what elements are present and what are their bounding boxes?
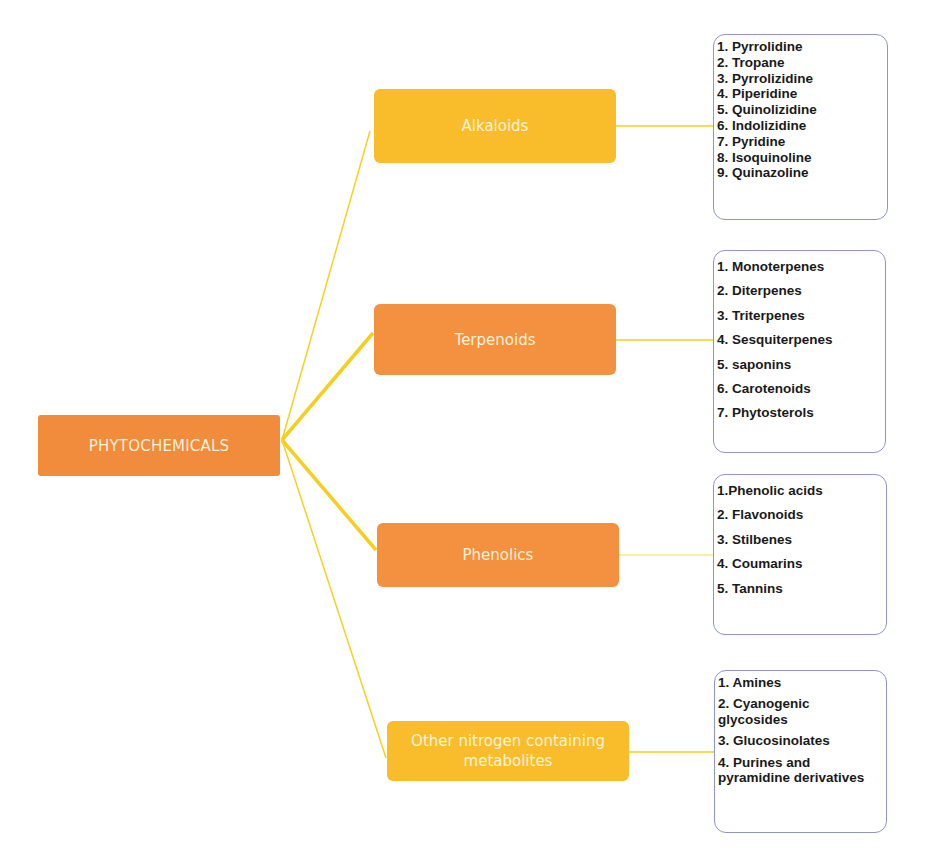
items-list: 1. Monoterpenes 2. Diterpenes 3. Triterp… [717,255,881,426]
connector-root-alkaloids [282,131,370,440]
category-label: Other nitrogen containing metabolites [393,731,623,771]
category-node-phenolics: Phenolics [377,523,619,587]
list-item: 6. Indolizidine [717,118,883,134]
category-label: Terpenoids [455,330,536,350]
list-item: 4. Piperidine [717,86,883,102]
items-list: 1. Pyrrolidine 2. Tropane 3. Pyrrolizidi… [717,39,883,181]
category-node-terpenoids: Terpenoids [374,304,616,375]
phytochemicals-diagram: PHYTOCHEMICALS Alkaloids Terpenoids Phen… [0,0,929,865]
list-item: 4. Purines and pyramidine derivatives [718,755,882,786]
list-item: 1. Amines [718,675,882,690]
list-item: 5. Quinolizidine [717,102,883,118]
items-list: 1.Phenolic acids 2. Flavonoids 3. Stilbe… [717,479,882,601]
list-item: 3. Pyrrolizidine [717,71,883,87]
list-item: 8. Isoquinoline [717,150,883,166]
list-item: 5. saponins [717,353,881,377]
list-item: 7. Pyridine [717,134,883,150]
root-node-phytochemicals: PHYTOCHEMICALS [38,415,280,476]
list-item: 3. Triterpenes [717,304,881,328]
list-item: 4. Coumarins [717,552,882,576]
list-item: 6. Carotenoids [717,377,881,401]
connector-root-phenolics [282,440,376,550]
items-box-alkaloids: 1. Pyrrolidine 2. Tropane 3. Pyrrolizidi… [713,34,888,220]
list-item: 5. Tannins [717,577,882,601]
list-item: 2. Tropane [717,55,883,71]
connector-root-other [282,440,386,758]
category-label: Alkaloids [462,116,529,136]
list-item: 1.Phenolic acids [717,479,882,503]
list-item: 3. Glucosinolates [718,733,882,748]
list-item: 2. Flavonoids [717,503,882,527]
category-node-alkaloids: Alkaloids [374,89,616,163]
items-box-other-nitrogen-metabolites: 1. Amines 2. Cyanogenic glycosides 3. Gl… [714,670,887,833]
list-item: 2. Diterpenes [717,279,881,303]
items-box-terpenoids: 1. Monoterpenes 2. Diterpenes 3. Triterp… [713,250,886,453]
list-item: 1. Pyrrolidine [717,39,883,55]
items-box-phenolics: 1.Phenolic acids 2. Flavonoids 3. Stilbe… [713,474,887,635]
items-list: 1. Amines 2. Cyanogenic glycosides 3. Gl… [718,675,882,785]
category-node-other-nitrogen-metabolites: Other nitrogen containing metabolites [387,721,629,781]
list-item: 9. Quinazoline [717,165,883,181]
list-item: 4. Sesquiterpenes [717,328,881,352]
category-label: Phenolics [463,545,534,565]
list-item: 1. Monoterpenes [717,255,881,279]
list-item: 3. Stilbenes [717,528,882,552]
list-item: 2. Cyanogenic glycosides [718,696,882,727]
root-node-label: PHYTOCHEMICALS [89,436,229,456]
connector-root-terpenoids [282,333,373,440]
list-item: 7. Phytosterols [717,401,881,425]
